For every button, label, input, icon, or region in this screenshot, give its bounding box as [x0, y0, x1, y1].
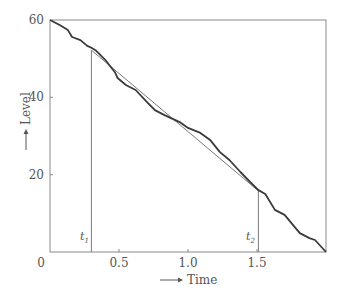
level-vs-time-chart: 00.51.01.5204060 t1 t2 Time Level: [0, 0, 341, 296]
y-axis-label: Level: [19, 92, 33, 125]
x-tick-label: 1.0: [178, 256, 197, 270]
x-axis-arrowhead-icon: [178, 278, 183, 283]
x-tick-label: 1.5: [247, 256, 266, 270]
time-markers: [91, 50, 258, 252]
t2-label: t2: [246, 230, 255, 245]
x-tick-label: 0.5: [109, 256, 128, 270]
x-axis-label: Time: [187, 273, 217, 287]
t1-label: t1: [80, 230, 89, 245]
x-axis-title: Time: [160, 273, 217, 287]
y-axis-arrowhead-icon: [24, 129, 29, 134]
axis-ticks: [50, 97, 257, 252]
y-tick-label: 20: [29, 168, 44, 182]
y-tick-label: 60: [29, 13, 44, 27]
x-tick-label: 0: [37, 256, 45, 270]
y-axis-title: Level: [19, 92, 33, 150]
tick-labels: 00.51.01.5204060: [29, 13, 267, 270]
